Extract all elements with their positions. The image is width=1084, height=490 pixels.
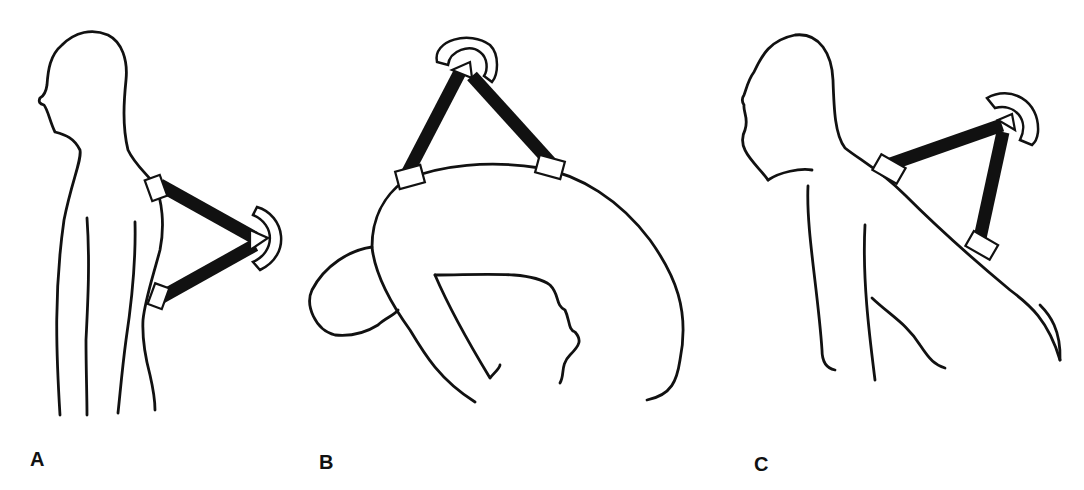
goniometer-arm-lower <box>980 132 1003 238</box>
goniometer-arm-upper <box>160 185 255 238</box>
goniometer-arm-right <box>472 76 550 162</box>
panel-a-spine-line-2 <box>118 222 135 413</box>
panel-b-arm-outline <box>372 180 475 402</box>
panel-a-body-outline <box>39 32 162 415</box>
panel-label-a: A <box>30 448 44 471</box>
panel-label-c: C <box>754 453 768 476</box>
panel-b-figure <box>310 38 683 402</box>
panel-c-arm-outline <box>872 298 945 368</box>
panel-a-goniometer <box>145 175 281 309</box>
goniometer-arm-upper <box>888 125 1002 165</box>
panel-c-head-outline <box>743 35 1061 360</box>
panel-c-spine-line-2 <box>864 225 875 380</box>
goniometer-arm-left <box>408 72 460 172</box>
goniometer-pad-left <box>395 165 425 189</box>
goniometer-arm-lower <box>160 245 255 298</box>
panel-c-figure <box>743 35 1061 380</box>
panel-label-b: B <box>319 451 333 474</box>
panel-b-torso-contour <box>435 274 579 383</box>
goniometer-pivot <box>250 230 268 250</box>
panel-c-goniometer <box>872 93 1038 259</box>
panel-a-spine-line-1 <box>86 218 89 415</box>
panel-c-spine-line-1 <box>808 186 835 370</box>
figure-canvas <box>0 0 1084 490</box>
panel-a-figure <box>39 32 281 415</box>
panel-b-goniometer <box>395 38 565 189</box>
goniometer-pad-upper <box>145 175 168 201</box>
goniometer-pad-right <box>535 155 565 179</box>
panel-b-inner-arm <box>435 275 500 378</box>
panel-c-neck-outline <box>768 169 812 180</box>
